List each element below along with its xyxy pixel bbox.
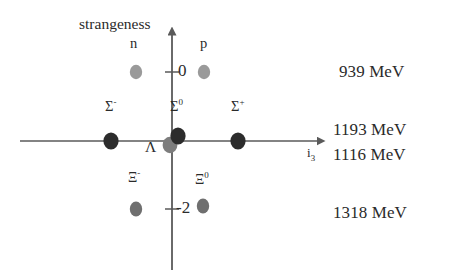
y-tick-label-0: 0 [178,62,187,79]
particle-label-sigma-plus-sup: + [239,97,244,107]
particle-label-xi-minus-sup: - [137,168,140,178]
mass-label-sigma: 1193 MeV [333,121,406,138]
particle-label-xi-minus-base: Ξ [128,169,137,185]
data-point-xi-zero [197,199,209,214]
mass-label-lambda: 1116 MeV [333,146,406,163]
mass-label-nucleon: 939 MeV [339,63,404,80]
particle-label-sigma-minus: Σ- [105,99,116,114]
particle-label-p-base: p [200,35,207,51]
particle-label-lambda-base: Λ [145,138,156,155]
baryon-octet-plot [0,0,460,279]
particle-label-lambda: Λ [145,139,156,155]
particle-label-sigma-plus: Σ+ [231,99,245,114]
data-point-sigma-minus [103,132,118,149]
data-point-p [198,65,210,79]
particle-label-sigma-zero: Σ0 [170,99,183,114]
data-point-xi-minus [130,202,142,217]
data-point-n [130,65,142,79]
particle-label-sigma-zero-sup: 0 [178,97,183,107]
mass-label-xi: 1318 MeV [333,204,407,221]
data-point-sigma-zero [170,127,185,144]
particle-label-sigma-minus-sup: - [113,97,116,107]
y-tick-label-minus-2: -2 [176,199,190,216]
particle-label-n-base: n [130,35,137,51]
particle-label-xi-zero-base: Ξ [195,171,204,187]
particle-label-xi-zero: Ξ0 [195,172,209,187]
particle-label-xi-minus: Ξ- [128,170,140,185]
particle-label-xi-zero-sup: 0 [204,170,209,180]
data-point-sigma-plus [230,132,245,149]
x-axis-title-subscript: 3 [311,153,315,163]
y-axis-title: strangeness [79,16,150,32]
x-axis-title: i3 [307,146,315,159]
particle-label-n: n [130,36,137,51]
particle-label-p: p [200,36,207,51]
